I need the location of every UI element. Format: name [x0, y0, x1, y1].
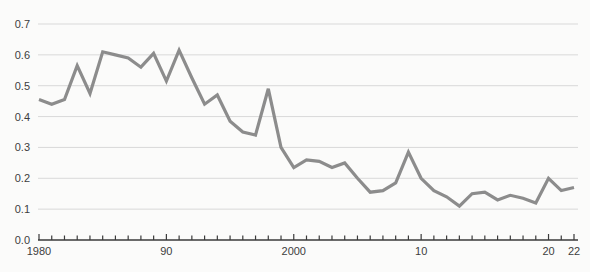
y-tick-label: 0.6 — [15, 49, 30, 61]
y-axis-labels: 0.00.10.20.30.40.50.60.7 — [15, 18, 30, 246]
x-tick-label: 10 — [415, 245, 427, 257]
data-series-line — [39, 50, 574, 206]
x-tick-label: 20 — [542, 245, 554, 257]
y-tick-label: 0.2 — [15, 172, 30, 184]
line-chart: 0.00.10.20.30.40.50.60.71980902000102022 — [0, 0, 590, 272]
y-gridlines — [38, 24, 578, 209]
x-tick-label: 1980 — [27, 245, 51, 257]
x-tick-label: 2000 — [282, 245, 306, 257]
x-axis: 1980902000102022 — [27, 234, 580, 257]
chart-container: 0.00.10.20.30.40.50.60.71980902000102022 — [0, 0, 590, 272]
y-tick-label: 0.7 — [15, 18, 30, 30]
x-tick-label: 90 — [160, 245, 172, 257]
y-tick-label: 0.5 — [15, 80, 30, 92]
x-tick-label: 22 — [568, 245, 580, 257]
y-tick-label: 0.1 — [15, 203, 30, 215]
y-tick-label: 0.4 — [15, 111, 30, 123]
y-tick-label: 0.3 — [15, 141, 30, 153]
